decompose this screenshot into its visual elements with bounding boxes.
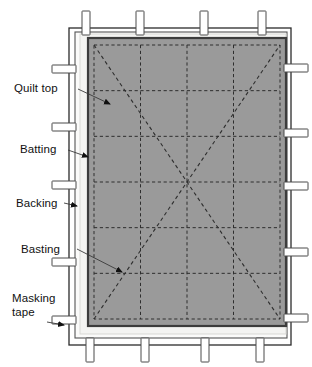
diagram-canvas: Quilt topBattingBackingBastingMasking ta… (0, 0, 312, 367)
masking-tape-strip-bottom[interactable] (86, 338, 94, 362)
masking-tape-strip-top[interactable] (136, 11, 144, 35)
masking-tape-strip-left[interactable] (52, 123, 76, 131)
masking-tape-strip-bottom[interactable] (141, 338, 149, 362)
masking-tape-strip-top[interactable] (82, 11, 90, 35)
label-backing: Backing (16, 197, 58, 211)
label-quilt-top: Quilt top (14, 82, 58, 96)
masking-tape-strip-left[interactable] (52, 258, 76, 266)
masking-tape-strip-bottom[interactable] (256, 338, 264, 362)
masking-tape-strip-left[interactable] (52, 65, 76, 73)
label-batting: Batting (20, 143, 57, 157)
label-masking-tape: Masking tape (12, 292, 56, 319)
masking-tape-strip-right[interactable] (284, 182, 308, 190)
label-basting: Basting (21, 243, 60, 257)
masking-tape-strip-left[interactable] (52, 316, 76, 324)
masking-tape-strip-top[interactable] (200, 11, 208, 35)
masking-tape-strip-top[interactable] (258, 11, 266, 35)
masking-tape-strip-right[interactable] (284, 248, 308, 256)
masking-tape-strip-right[interactable] (284, 64, 308, 72)
masking-tape-strip-left[interactable] (52, 181, 76, 189)
masking-tape-strip-bottom[interactable] (201, 338, 209, 362)
masking-tape-strip-right[interactable] (284, 129, 308, 137)
masking-tape-strip-right[interactable] (284, 314, 308, 322)
